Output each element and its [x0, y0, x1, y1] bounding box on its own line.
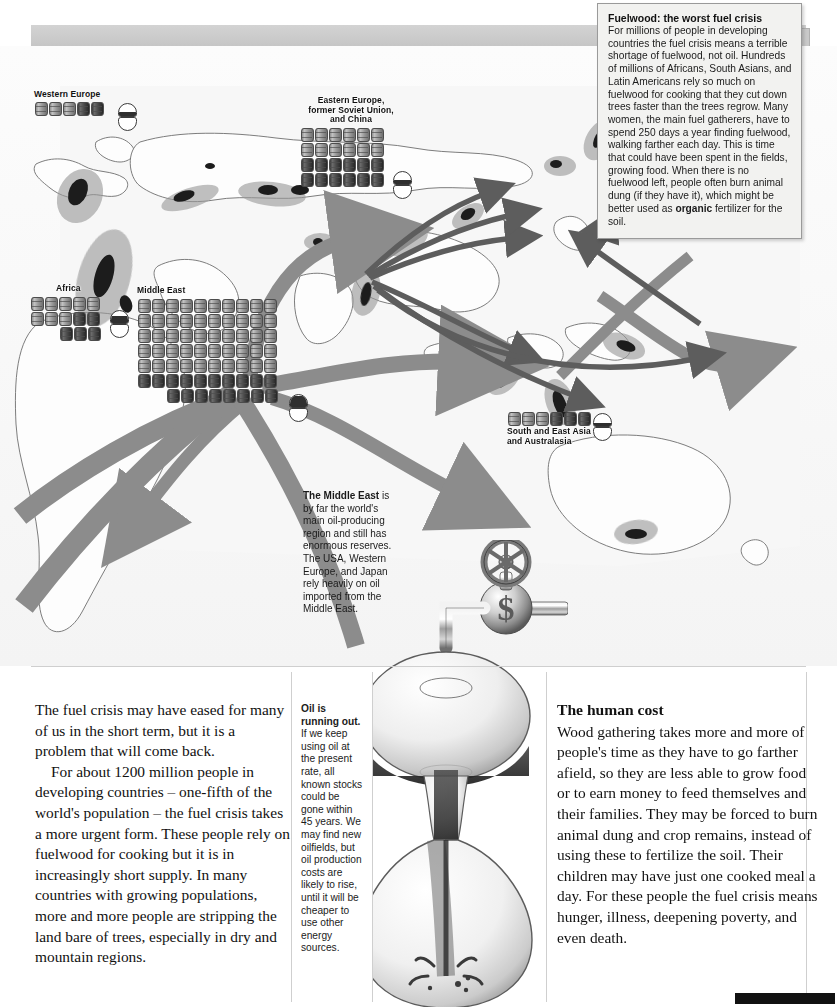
- region-western-europe: Western Europe: [34, 90, 114, 117]
- right-column-heading: The human cost: [557, 700, 819, 721]
- barrel: [91, 102, 104, 116]
- barrel: [250, 359, 263, 373]
- barrel: [138, 314, 151, 328]
- barrel: [329, 158, 342, 172]
- barrel: [59, 312, 72, 326]
- barrel: [357, 173, 370, 187]
- dollar-tap-hourglass-illustration: $: [372, 540, 568, 1007]
- barrel: [236, 344, 249, 358]
- barrel: [522, 412, 535, 426]
- barrel: [138, 329, 151, 343]
- region-label-eastern-europe: Eastern Europe, former Soviet Union, and…: [300, 96, 402, 125]
- barrel: [74, 327, 87, 341]
- column-rule-2: [372, 672, 373, 1002]
- barrel: [138, 344, 151, 358]
- barrel: [73, 297, 86, 311]
- barrel: [236, 374, 249, 388]
- reserve-hourglass-western-europe: [118, 103, 137, 131]
- barrel: [329, 173, 342, 187]
- barrel: [194, 299, 207, 313]
- barrel: [166, 329, 179, 343]
- barrel: [88, 327, 101, 341]
- barrel: [357, 158, 370, 172]
- valve-handwheel: [484, 540, 528, 584]
- infobox-body: For millions of people in developing cou…: [608, 25, 792, 228]
- middle-text-column: Oil is running out. If we keep using oil…: [301, 703, 363, 955]
- barrel: [208, 344, 221, 358]
- barrel: [564, 412, 577, 426]
- infobox-bold-term: organic: [675, 203, 712, 214]
- illustration-graphic: $: [372, 540, 568, 1007]
- barrel: [152, 359, 165, 373]
- barrel: [250, 374, 263, 388]
- barrel: [508, 412, 521, 426]
- barrel: [236, 359, 249, 373]
- barrel: [236, 329, 249, 343]
- barrel: [236, 314, 249, 328]
- barrel: [138, 299, 151, 313]
- barrel-group-africa: [30, 297, 105, 342]
- bottom-horizontal-rule: [31, 666, 806, 667]
- barrel: [208, 359, 221, 373]
- barrel: [87, 297, 100, 311]
- barrel: [152, 374, 165, 388]
- barrel: [194, 359, 207, 373]
- barrel: [194, 374, 207, 388]
- barrel: [301, 158, 314, 172]
- barrel: [166, 374, 179, 388]
- barrel: [45, 312, 58, 326]
- barrel: [49, 102, 62, 116]
- barrel: [222, 314, 235, 328]
- region-label-africa: Africa: [56, 284, 105, 294]
- barrel: [195, 389, 208, 403]
- barrel-group-eastern-europe: [300, 128, 390, 188]
- barrel: [166, 359, 179, 373]
- barrel: [209, 389, 222, 403]
- region-label-south-east-asia: South and East Asia and Australasia: [507, 427, 607, 446]
- barrel: [222, 344, 235, 358]
- dollar-sign-glyph: $: [498, 590, 515, 627]
- barrel: [138, 374, 151, 388]
- barrel: [550, 412, 563, 426]
- barrel: [315, 173, 328, 187]
- column-rule-1: [291, 672, 292, 1002]
- barrel: [301, 128, 314, 142]
- barrel: [343, 143, 356, 157]
- barrel: [223, 389, 236, 403]
- barrel: [250, 314, 263, 328]
- middle-column-body: If we keep using oil at the present rate…: [301, 728, 362, 953]
- left-column-paragraph-1: The fuel crisis may have eased for many …: [35, 700, 290, 762]
- region-label-western-europe: Western Europe: [34, 90, 114, 100]
- barrel: [31, 312, 44, 326]
- barrel: [357, 128, 370, 142]
- barrel: [87, 312, 100, 326]
- barrel: [264, 374, 277, 388]
- barrel: [208, 299, 221, 313]
- barrel: [60, 327, 73, 341]
- reserve-hourglass-south-east-asia: [593, 413, 612, 441]
- infobox-body-part1: For millions of people in developing cou…: [608, 25, 791, 214]
- barrel: [343, 158, 356, 172]
- barrel: [152, 344, 165, 358]
- barrel: [222, 374, 235, 388]
- barrel: [181, 389, 194, 403]
- barrel: [371, 173, 384, 187]
- barrel: [222, 299, 235, 313]
- barrel: [222, 329, 235, 343]
- page-footer-black-bar: [735, 993, 835, 1004]
- barrel: [301, 143, 314, 157]
- caption-middle-east-lead: The Middle East: [303, 490, 379, 501]
- barrel: [73, 312, 86, 326]
- barrel: [236, 299, 249, 313]
- barrel: [250, 299, 263, 313]
- barrel: [77, 102, 90, 116]
- barrel: [371, 158, 384, 172]
- barrel: [251, 389, 264, 403]
- barrel: [222, 359, 235, 373]
- barrel: [208, 374, 221, 388]
- barrel: [180, 314, 193, 328]
- right-text-column: The human cost Wood gathering takes more…: [557, 700, 819, 948]
- barrel: [237, 389, 250, 403]
- barrel: [45, 297, 58, 311]
- barrel: [536, 412, 549, 426]
